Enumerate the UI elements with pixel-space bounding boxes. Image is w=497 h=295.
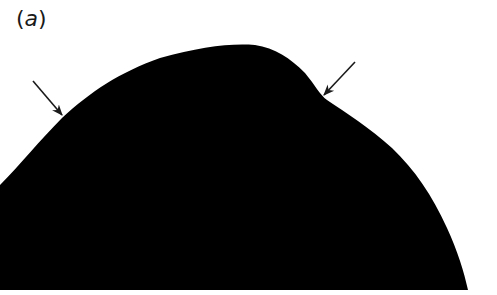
left-arrow-icon	[33, 81, 62, 115]
black-silhouette-shape	[0, 45, 468, 290]
figure-canvas	[0, 0, 497, 295]
right-arrow-icon	[324, 62, 355, 95]
